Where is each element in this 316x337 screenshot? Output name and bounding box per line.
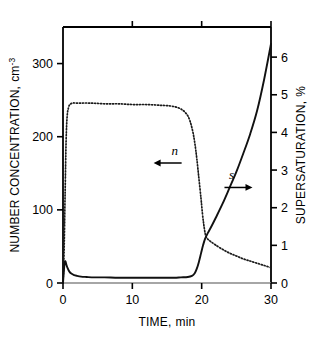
x-axis-title: TIME,min xyxy=(139,315,196,329)
x-tick-label: 20 xyxy=(195,293,209,307)
y-right-tick-label: 2 xyxy=(281,201,288,215)
series-label-s: s xyxy=(229,167,234,182)
y-axis-left-title-name: NUMBER CONCENTRATION xyxy=(8,89,22,252)
y-right-tick-label: 0 xyxy=(281,277,288,291)
chart-figure: 0102030 0100200300 0123456 ns TIME,min N… xyxy=(0,0,316,337)
x-axis-title-unit: min xyxy=(176,315,196,329)
x-tick-label: 30 xyxy=(264,293,278,307)
y-axis-left-title-unit: cm xyxy=(8,65,22,81)
y-left-tick-label: 200 xyxy=(32,130,53,144)
y-axis-right-title-name: SUPERSATURATION xyxy=(294,104,308,224)
y-right-tick-label: 5 xyxy=(281,88,288,102)
y-left-tick-label: 0 xyxy=(46,277,53,291)
y-left-tick-label: 100 xyxy=(32,203,53,217)
y-left-tick-label: 300 xyxy=(32,57,53,71)
y-axis-left-title: NUMBER CONCENTRATION,cm-3 xyxy=(7,57,22,252)
x-axis-title-name: TIME xyxy=(139,315,168,329)
x-tick-label: 0 xyxy=(60,293,67,307)
chart-svg: 0102030 0100200300 0123456 ns TIME,min N… xyxy=(0,0,316,337)
y-right-tick-label: 4 xyxy=(281,126,288,140)
y-right-tick-label: 3 xyxy=(281,164,288,178)
y-right-tick-label: 6 xyxy=(281,51,288,65)
y-right-tick-label: 1 xyxy=(281,239,288,253)
series-label-n: n xyxy=(171,143,178,158)
y-axis-right-title-unit: % xyxy=(294,86,308,97)
y-axis-right-title: SUPERSATURATION,% xyxy=(294,86,308,224)
x-tick-label: 10 xyxy=(125,293,139,307)
y-axis-left-title-exponent: -3 xyxy=(7,57,17,65)
